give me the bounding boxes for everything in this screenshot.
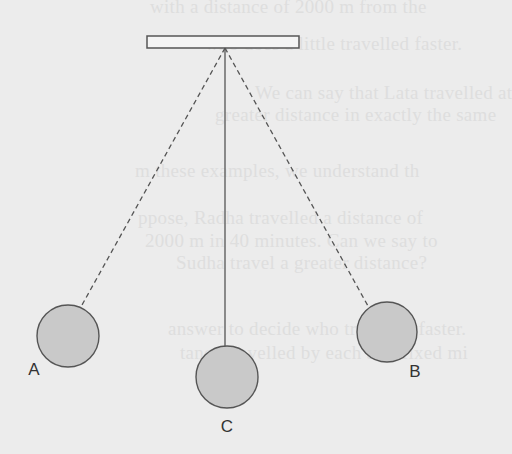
- support-bar: [147, 36, 299, 48]
- string-to-bob-b: [225, 48, 368, 306]
- bob-a: [37, 305, 99, 367]
- bob-b: [357, 302, 417, 362]
- string-to-bob-a: [82, 48, 225, 305]
- label-b: B: [409, 362, 420, 381]
- bob-c: [196, 346, 258, 408]
- label-a: A: [28, 360, 40, 379]
- label-c: C: [221, 417, 233, 436]
